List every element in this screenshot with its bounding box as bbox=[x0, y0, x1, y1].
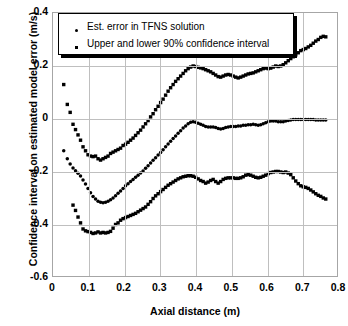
x-axis-tick-label: 0.2 bbox=[104, 281, 144, 293]
x-gridline bbox=[303, 13, 304, 276]
data-point bbox=[74, 128, 77, 131]
x-axis-tick-label: 0.7 bbox=[282, 281, 322, 293]
x-axis-tick-label: 0.5 bbox=[211, 281, 251, 293]
data-point bbox=[324, 197, 327, 200]
data-point bbox=[171, 83, 174, 86]
y-axis-tick-label: 0.4 bbox=[16, 5, 48, 17]
data-point bbox=[164, 145, 168, 149]
x-axis-title: Axial distance (m) bbox=[52, 305, 338, 317]
data-point bbox=[174, 134, 178, 138]
data-point bbox=[71, 203, 74, 206]
dot-marker-icon bbox=[65, 18, 87, 36]
data-point bbox=[144, 122, 147, 125]
data-point bbox=[144, 167, 148, 171]
x-axis-tick-label: 0.3 bbox=[139, 281, 179, 293]
legend-entry-est-error: Est. error in TFNS solution bbox=[65, 18, 287, 35]
data-point bbox=[79, 139, 82, 142]
data-point bbox=[71, 123, 74, 126]
y-gridline bbox=[53, 225, 337, 226]
x-axis-tick-label: 0.6 bbox=[247, 281, 287, 293]
data-point bbox=[84, 149, 87, 152]
data-point bbox=[149, 161, 153, 165]
data-point bbox=[76, 215, 79, 218]
data-point bbox=[166, 89, 169, 92]
data-point bbox=[68, 111, 71, 114]
data-point bbox=[154, 108, 157, 111]
y-axis-tick-label: 0 bbox=[16, 111, 48, 123]
data-point bbox=[119, 189, 123, 193]
data-point bbox=[68, 162, 72, 166]
data-point bbox=[66, 103, 69, 106]
data-point bbox=[76, 133, 79, 136]
x-axis-tick-label: 0.1 bbox=[68, 281, 108, 293]
data-point bbox=[66, 157, 70, 161]
x-axis-tick-label: 0.8 bbox=[318, 281, 348, 293]
data-point bbox=[179, 129, 183, 133]
data-point bbox=[81, 145, 84, 148]
y-axis-tick-label: -0.2 bbox=[16, 164, 48, 176]
data-point bbox=[114, 194, 118, 198]
data-point bbox=[171, 137, 175, 141]
y-gridline bbox=[53, 119, 337, 120]
y-axis-title: Confidence interval on estimated model e… bbox=[27, 9, 39, 269]
data-point bbox=[292, 176, 295, 179]
data-point bbox=[146, 164, 150, 168]
data-point bbox=[151, 159, 155, 163]
data-point bbox=[111, 226, 114, 229]
data-point bbox=[71, 166, 75, 170]
square-marker-icon bbox=[65, 35, 87, 53]
legend-label-est-error: Est. error in TFNS solution bbox=[87, 21, 205, 32]
chart-legend: Est. error in TFNS solution Upper and lo… bbox=[58, 13, 294, 55]
y-axis-tick-label: -0.4 bbox=[16, 217, 48, 229]
data-point bbox=[151, 112, 154, 115]
data-point bbox=[109, 230, 112, 233]
data-point bbox=[166, 142, 170, 146]
y-axis-tick-label: 0.2 bbox=[16, 58, 48, 70]
y-gridline bbox=[53, 66, 337, 67]
data-point bbox=[62, 149, 66, 153]
data-point bbox=[139, 128, 142, 131]
data-point bbox=[154, 156, 158, 160]
data-point bbox=[84, 182, 88, 186]
data-point bbox=[79, 174, 83, 178]
x-axis-tick-label: 0.4 bbox=[175, 281, 215, 293]
data-point bbox=[141, 125, 144, 128]
chart-figure: Confidence interval on estimated model e… bbox=[0, 0, 348, 326]
y-gridline bbox=[53, 172, 337, 173]
data-point bbox=[74, 209, 77, 212]
data-point bbox=[149, 200, 152, 203]
x-axis-tick-label: 0 bbox=[32, 281, 72, 293]
data-point bbox=[91, 195, 95, 199]
data-point bbox=[161, 97, 164, 100]
data-point bbox=[164, 93, 167, 96]
data-point bbox=[176, 132, 180, 136]
data-point bbox=[289, 173, 292, 176]
data-point bbox=[161, 148, 165, 152]
legend-label-confidence-interval: Upper and lower 90% confidence interval bbox=[87, 38, 269, 49]
data-point bbox=[169, 140, 173, 144]
legend-entry-confidence-interval: Upper and lower 90% confidence interval bbox=[65, 35, 287, 52]
data-point bbox=[169, 86, 172, 89]
data-point bbox=[81, 178, 85, 182]
data-point bbox=[324, 35, 327, 38]
data-point bbox=[62, 83, 65, 86]
y-axis-tick-label: -0.6 bbox=[16, 270, 48, 282]
